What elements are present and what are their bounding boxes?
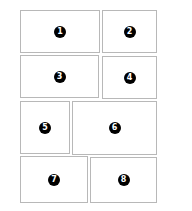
panel-5: 5 [20,101,70,154]
panel-number-badge: 3 [54,71,66,83]
panel-1: 1 [20,10,100,53]
panel-7: 7 [20,156,88,203]
panel-3: 3 [20,55,99,98]
panel-6: 6 [72,101,157,155]
panel-number-badge: 1 [54,26,66,38]
panel-number-badge: 4 [124,72,136,84]
panel-number-badge: 2 [124,26,136,38]
panel-number-badge: 6 [109,122,121,134]
panel-number-badge: 5 [39,122,51,134]
panel-number-badge: 7 [48,174,60,186]
panel-4: 4 [102,56,157,99]
panel-2: 2 [102,10,157,53]
panel-number-badge: 8 [118,174,130,186]
panel-8: 8 [90,157,157,203]
